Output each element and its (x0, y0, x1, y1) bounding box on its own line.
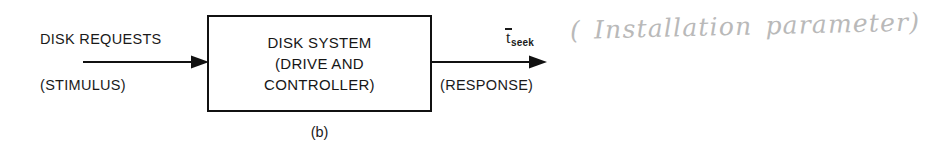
disk-system-block-line-1: DISK SYSTEM (267, 32, 371, 53)
block-diagram-figure: DISK REQUESTS (STIMULUS) DISK SYSTEM (DR… (0, 0, 937, 158)
t-bar-symbol: t (506, 27, 510, 47)
input-flow-subtitle: (STIMULUS) (40, 77, 126, 93)
handwritten-annotation: ( Installation parameter) (570, 7, 921, 45)
output-arrow-right-icon (430, 53, 547, 75)
output-flow-symbol: tseek (506, 27, 534, 48)
figure-caption: (b) (207, 124, 432, 140)
input-arrow-right-icon (83, 53, 209, 75)
disk-system-block-line-2: (DRIVE AND (275, 53, 364, 74)
disk-system-block: DISK SYSTEM (DRIVE AND CONTROLLER) (207, 15, 432, 112)
input-flow-title: DISK REQUESTS (40, 31, 162, 47)
t-bar-subscript: seek (511, 37, 534, 48)
disk-system-block-line-3: CONTROLLER) (264, 74, 375, 95)
output-flow-subtitle: (RESPONSE) (440, 77, 533, 93)
